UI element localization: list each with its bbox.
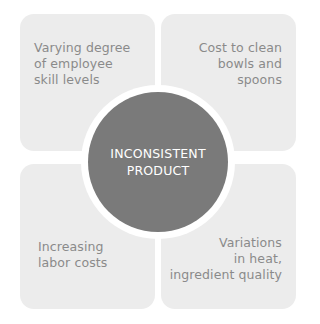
quadrant-bottom-right-text: Variations in heat, ingredient quality <box>170 235 282 283</box>
text-line: Varying degree <box>34 40 130 56</box>
text-line: ingredient quality <box>170 267 282 283</box>
text-line: bowls and <box>199 56 282 72</box>
quadrant-bottom-left-text: Increasing labor costs <box>38 239 107 271</box>
quadrant-top-right-text: Cost to clean bowls and spoons <box>199 40 282 88</box>
text-line: spoons <box>199 72 282 88</box>
center-circle: INCONSISTENT PRODUCT <box>88 92 228 232</box>
text-line: labor costs <box>38 255 107 271</box>
text-line: skill levels <box>34 72 130 88</box>
text-line: Increasing <box>38 239 107 255</box>
text-line: Variations <box>170 235 282 251</box>
text-line: in heat, <box>170 251 282 267</box>
text-line: of employee <box>34 56 130 72</box>
text-line: Cost to clean <box>199 40 282 56</box>
center-label-line: INCONSISTENT <box>110 145 205 162</box>
center-label-line: PRODUCT <box>110 162 205 179</box>
center-label: INCONSISTENT PRODUCT <box>110 145 205 179</box>
quadrant-top-left-text: Varying degree of employee skill levels <box>34 40 130 88</box>
